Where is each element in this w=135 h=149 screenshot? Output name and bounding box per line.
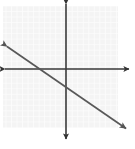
coordinate-plane-figure <box>0 0 135 149</box>
graph-canvas <box>0 0 135 149</box>
grid-area <box>3 6 118 128</box>
